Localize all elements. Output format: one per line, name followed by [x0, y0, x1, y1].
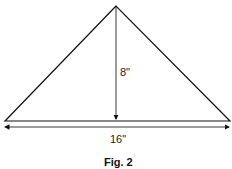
height-label: 8" [120, 66, 130, 78]
figure-caption: Fig. 2 [104, 156, 133, 168]
base-label: 16" [110, 133, 126, 145]
triangle [5, 6, 230, 121]
